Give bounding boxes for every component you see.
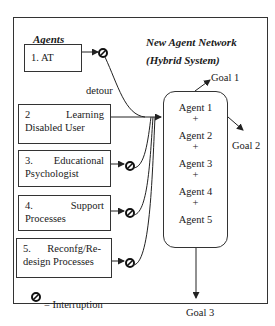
goal-3-label: Goal 3 xyxy=(186,307,214,318)
network-agent-1: Agent 1 xyxy=(164,102,227,113)
goal-1-label: Goal 1 xyxy=(211,72,239,83)
plus-sign: + xyxy=(164,141,227,152)
agent-label: Learning xyxy=(66,108,104,121)
network-subtitle: (Hybrid System) xyxy=(146,54,220,66)
plus-sign: + xyxy=(164,113,227,124)
agent-number: 4. xyxy=(25,199,33,212)
agent-box-at: 1. AT xyxy=(24,44,82,72)
agent-number: 1. xyxy=(31,52,39,63)
agent-box-reconfig-redesign-processes: 5.Reconfg/Re- design Processes xyxy=(16,238,112,278)
goal-2-label: Goal 2 xyxy=(232,140,260,151)
agent-label: design Processes xyxy=(23,255,105,268)
network-agent-2: Agent 2 xyxy=(164,130,227,141)
agent-label: AT xyxy=(41,52,54,63)
network-title: New Agent Network xyxy=(146,36,237,48)
agent-label: Processes xyxy=(25,212,104,225)
interruption-icon xyxy=(32,292,42,302)
network-agent-5: Agent 5 xyxy=(164,214,227,225)
agent-label: Reconfg/Re- xyxy=(47,242,101,255)
agent-network-box: Agent 1 + Agent 2 + Agent 3 + Agent 4 + … xyxy=(163,91,228,248)
agent-number: 2 xyxy=(25,108,30,121)
network-agent-4: Agent 4 xyxy=(164,186,227,197)
agent-label: Educational xyxy=(54,154,104,167)
plus-sign: + xyxy=(164,197,227,208)
agent-label: Psychologist xyxy=(25,167,104,180)
agent-box-support-processes: 4.Support Processes xyxy=(18,195,111,231)
agent-number: 5. xyxy=(23,242,31,255)
network-agent-3: Agent 3 xyxy=(164,158,227,169)
agent-box-educational-psychologist: 3.Educational Psychologist xyxy=(18,150,111,187)
detour-label: detour xyxy=(86,85,113,96)
legend-text: = Interruption xyxy=(44,299,103,310)
agent-label: Disabled User xyxy=(25,121,104,134)
agent-number: 3. xyxy=(25,154,33,167)
agent-label: Support xyxy=(71,199,104,212)
plus-sign: + xyxy=(164,169,227,180)
agent-box-learning-disabled-user: 2Learning Disabled User xyxy=(18,104,111,144)
